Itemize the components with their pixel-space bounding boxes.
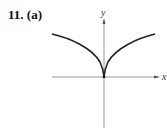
curve-left bbox=[52, 34, 104, 77]
y-axis-label: y bbox=[100, 7, 106, 18]
x-axis-label: x bbox=[161, 71, 167, 82]
origin-point bbox=[103, 76, 106, 79]
graph: y x bbox=[0, 0, 167, 128]
curve-right bbox=[104, 34, 155, 77]
y-axis-arrow-icon bbox=[103, 18, 106, 24]
x-axis-arrow-icon bbox=[154, 76, 160, 79]
